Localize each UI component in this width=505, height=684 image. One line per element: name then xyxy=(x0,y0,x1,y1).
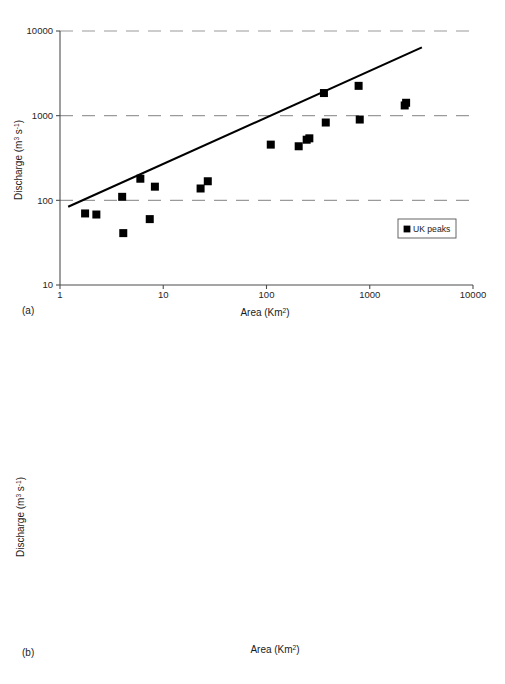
data-point xyxy=(295,142,303,150)
chart-a-y-tick-label: 100 xyxy=(37,195,53,206)
data-point xyxy=(118,193,126,201)
figure-container: 10100100010000110100100010000 Area (Km2)… xyxy=(0,0,505,684)
chart-a-tick-labels: 10100100010000110100100010000 xyxy=(27,25,487,300)
chart-panel-b: 1000100001000001000000100100010000 Area … xyxy=(0,342,505,684)
chart-a-x-tick-label: 10 xyxy=(158,289,169,300)
chart-a-x-tick-label: 1000 xyxy=(359,289,380,300)
data-point xyxy=(92,211,100,219)
chart-a-canvas: 10100100010000110100100010000 Area (Km2)… xyxy=(0,0,505,342)
chart-a-ticks xyxy=(56,31,473,289)
chart-a-x-tick-label: 1 xyxy=(57,289,62,300)
data-point xyxy=(136,175,144,183)
chart-a-y-tick-label: 10000 xyxy=(27,25,53,36)
legend-label: UK peaks xyxy=(413,224,450,234)
data-point xyxy=(320,89,328,97)
chart-a-legend[interactable]: UK peaks xyxy=(398,219,456,238)
data-point xyxy=(402,99,410,107)
data-point xyxy=(119,229,127,237)
chart-b-x-axis-title: Area (Km2) xyxy=(250,644,299,656)
data-point xyxy=(204,177,212,185)
chart-a-y-tick-label: 1000 xyxy=(32,110,53,121)
panel-a-tag: (a) xyxy=(22,305,34,316)
data-point xyxy=(151,183,159,191)
chart-a-x-tick-label: 10000 xyxy=(460,289,486,300)
chart-panel-a: 10100100010000110100100010000 Area (Km2)… xyxy=(0,0,505,342)
data-point xyxy=(81,209,89,217)
chart-a-gridlines xyxy=(60,31,473,200)
data-point xyxy=(322,119,330,127)
legend-marker xyxy=(404,226,411,233)
chart-a-data-points xyxy=(81,82,410,237)
series-uk-peaks xyxy=(81,82,410,237)
chart-a-envelope-line xyxy=(68,47,422,206)
data-point xyxy=(267,141,275,149)
data-point xyxy=(146,215,154,223)
chart-a-y-tick-label: 10 xyxy=(42,279,53,290)
chart-a-x-tick-label: 100 xyxy=(259,289,275,300)
data-point xyxy=(355,82,363,90)
chart-a-y-axis-title: Discharge (m3 s-1) xyxy=(13,120,25,200)
data-point xyxy=(305,134,313,142)
chart-b-canvas: 1000100001000001000000100100010000 Area … xyxy=(0,342,505,684)
data-point xyxy=(356,116,364,124)
panel-b-tag: (b) xyxy=(22,647,34,658)
chart-a-axes xyxy=(60,31,473,285)
chart-a-x-axis-title: Area (Km2) xyxy=(240,307,289,319)
chart-b-y-axis-title: Discharge (m3 s-1) xyxy=(15,477,27,557)
data-point xyxy=(197,184,205,192)
